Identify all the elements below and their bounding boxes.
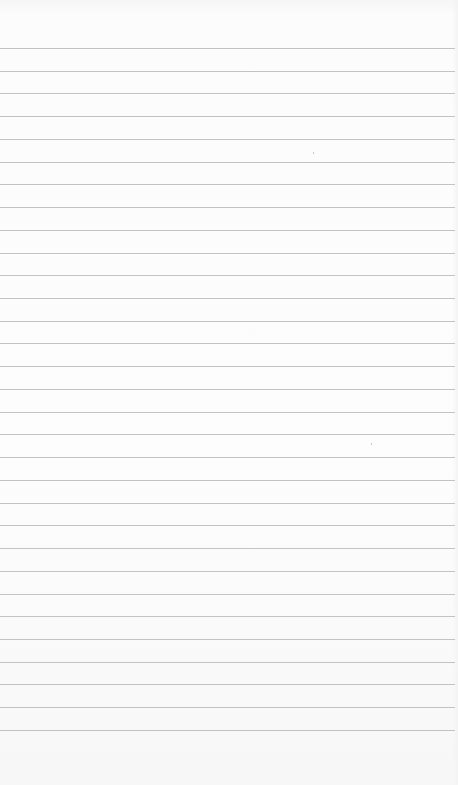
ruled-line — [0, 707, 455, 708]
ruled-line — [0, 275, 455, 276]
ruled-line — [0, 684, 455, 685]
ruled-line — [0, 253, 455, 254]
paper-speck — [313, 152, 314, 154]
ruled-line — [0, 139, 455, 140]
ruled-line — [0, 230, 455, 231]
ruled-line — [0, 389, 455, 390]
ruled-line — [0, 434, 455, 435]
ruled-line — [0, 116, 455, 117]
ruled-line — [0, 162, 455, 163]
ruled-line — [0, 343, 455, 344]
ruled-line — [0, 93, 455, 94]
ruled-line — [0, 548, 455, 549]
ruled-line — [0, 571, 455, 572]
ruled-line — [0, 457, 455, 458]
ruled-line — [0, 366, 455, 367]
ruled-line — [0, 321, 455, 322]
ruled-line — [0, 412, 455, 413]
ruled-line — [0, 639, 455, 640]
ruled-line — [0, 48, 455, 49]
ruled-line — [0, 730, 455, 731]
ruled-line — [0, 616, 455, 617]
paper-speck — [371, 443, 372, 445]
ruled-line — [0, 594, 455, 595]
ruled-line — [0, 207, 455, 208]
ruled-line — [0, 503, 455, 504]
ruled-line — [0, 298, 455, 299]
lined-paper — [0, 0, 458, 785]
ruled-line — [0, 184, 455, 185]
ruled-line — [0, 525, 455, 526]
ruled-line — [0, 71, 455, 72]
paper-edge — [452, 0, 458, 785]
ruled-line — [0, 480, 455, 481]
ruled-line — [0, 662, 455, 663]
